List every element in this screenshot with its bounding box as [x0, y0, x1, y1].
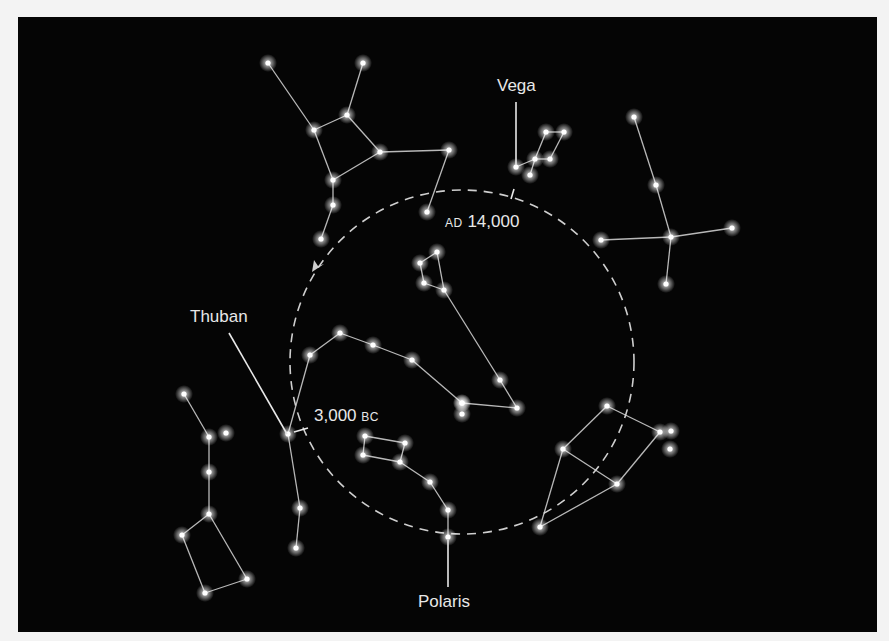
constellation-line	[268, 63, 314, 130]
star-icon	[265, 60, 270, 65]
constellation-line	[601, 237, 671, 240]
constellation-line	[540, 449, 563, 527]
star-icon	[604, 403, 609, 408]
star-icon	[293, 545, 298, 550]
star-icon	[427, 479, 432, 484]
star-icon	[497, 377, 502, 382]
constellation-line	[617, 432, 660, 484]
star-icon	[537, 524, 542, 529]
constellation-lines	[182, 63, 732, 593]
star-icon	[417, 260, 422, 265]
star-icon	[397, 459, 402, 464]
star-icon	[206, 511, 211, 516]
star-icon	[543, 129, 548, 134]
star-icon	[668, 428, 673, 433]
constellation-line	[540, 484, 617, 527]
star-icon	[330, 177, 335, 182]
star-icon	[653, 182, 658, 187]
ad-14000-tick	[511, 189, 514, 199]
star-icon	[446, 147, 451, 152]
star-icon	[459, 400, 464, 405]
star-icon	[337, 330, 342, 335]
star-icon	[202, 590, 207, 595]
star-icon	[663, 281, 668, 286]
ad-year: 14,000	[467, 212, 519, 231]
star-icon	[370, 342, 375, 347]
star-icon	[560, 446, 565, 451]
star-icon	[377, 149, 382, 154]
star-icon	[657, 429, 662, 434]
star-icon	[513, 164, 518, 169]
ad-prefix: AD	[445, 216, 463, 230]
precession-circle-path	[290, 190, 634, 534]
constellation-line	[209, 514, 247, 579]
star-icon	[179, 532, 184, 537]
constellation-line	[288, 434, 300, 508]
constellation-line	[182, 535, 205, 593]
constellation-line	[444, 290, 500, 380]
constellation-line	[288, 355, 310, 434]
star-icon	[547, 156, 552, 161]
star-icon	[206, 434, 211, 439]
star-icon	[614, 481, 619, 486]
thuban-label: Thuban	[190, 307, 248, 327]
constellation-line	[412, 360, 462, 403]
star-icon	[402, 440, 407, 445]
constellation-line	[427, 150, 449, 212]
star-icon	[330, 202, 335, 207]
star-icon	[409, 357, 414, 362]
star-icon	[532, 156, 537, 161]
star-icon	[297, 505, 302, 510]
star-icon	[445, 534, 450, 539]
star-icon	[311, 127, 316, 132]
precession-circle	[290, 190, 634, 534]
star-icon	[441, 287, 446, 292]
bc-3000-label: 3,000 BC	[314, 406, 379, 426]
constellation-line	[671, 228, 732, 237]
star-icon	[434, 249, 439, 254]
ad-14000-label: AD 14,000	[445, 212, 519, 232]
star-icon	[527, 172, 532, 177]
star-icon	[244, 576, 249, 581]
precession-diagram	[0, 0, 889, 641]
star-icon	[668, 234, 673, 239]
star-icon	[424, 209, 429, 214]
constellation-line	[380, 150, 449, 152]
star-icon	[206, 469, 211, 474]
star-icon	[514, 405, 519, 410]
star-icon	[459, 411, 464, 416]
star-icon	[344, 112, 349, 117]
thuban-pointer	[229, 333, 287, 434]
constellation-line	[634, 117, 656, 185]
star-icon	[360, 452, 365, 457]
constellation-line	[563, 449, 617, 484]
star-icon	[667, 446, 672, 451]
star-icon	[631, 114, 636, 119]
star-icon	[223, 430, 228, 435]
star-icon	[360, 60, 365, 65]
vega-label: Vega	[497, 76, 536, 96]
bc-year: 3,000	[314, 406, 357, 425]
star-icon	[362, 433, 367, 438]
star-icon	[421, 280, 426, 285]
star-icon	[307, 352, 312, 357]
bc-suffix: BC	[361, 410, 379, 424]
bc-3000-tick	[294, 428, 308, 432]
star-icon	[181, 391, 186, 396]
star-icon	[318, 236, 323, 241]
star-icon	[561, 129, 566, 134]
stars	[173, 54, 741, 602]
polaris-label: Polaris	[418, 592, 470, 612]
star-icon	[729, 225, 734, 230]
star-icon	[598, 237, 603, 242]
constellation-line	[563, 406, 607, 449]
star-icon	[445, 507, 450, 512]
